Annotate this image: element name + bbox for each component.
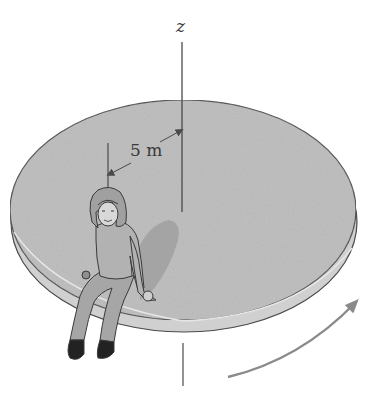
platform-top bbox=[10, 100, 356, 320]
girl-face bbox=[98, 202, 118, 226]
radius-dimension-label: 5 m bbox=[130, 140, 162, 160]
girl-shoe-left bbox=[68, 340, 84, 359]
rotating-platform-diagram: z 5 m bbox=[0, 0, 370, 400]
girl-shoe-right bbox=[97, 340, 114, 358]
z-axis-label: z bbox=[175, 16, 186, 36]
platform-disc bbox=[10, 100, 357, 332]
girl-hand bbox=[143, 291, 153, 301]
girl-left-hand bbox=[82, 271, 90, 279]
diagram-canvas: z 5 m bbox=[0, 0, 370, 400]
